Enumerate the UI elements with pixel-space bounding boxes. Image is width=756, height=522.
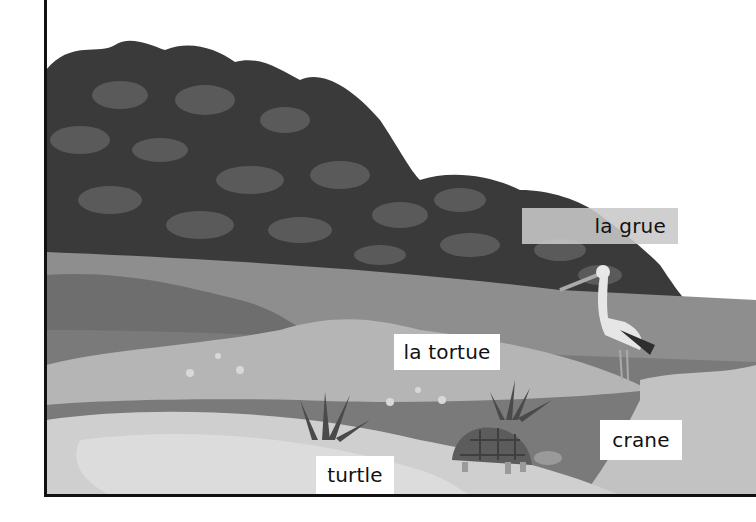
label-crane: crane [600,420,682,460]
frame-bottom-border [44,494,756,497]
label-turtle: turtle [316,456,394,494]
label-la-tortue: la tortue [394,334,500,370]
label-la-grue: la grue [522,208,678,244]
frame-left-border [44,0,47,497]
